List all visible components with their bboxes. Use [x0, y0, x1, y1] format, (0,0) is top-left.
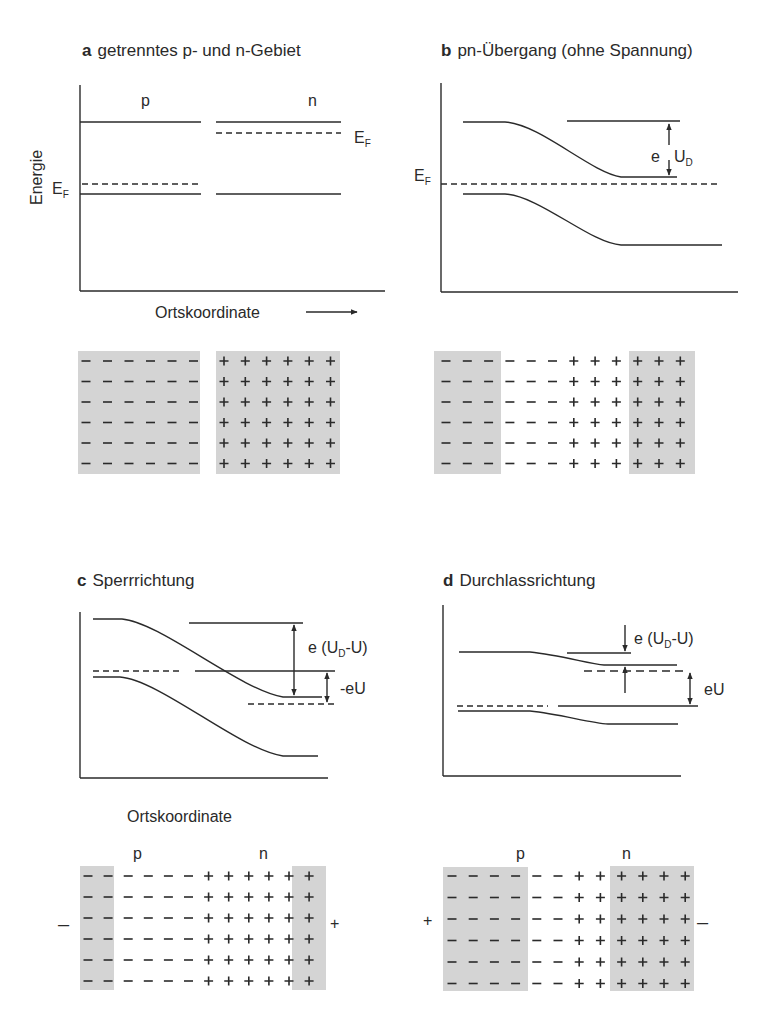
fermi-label-p: EF: [52, 180, 69, 200]
p-region-shaded: [80, 866, 114, 990]
plus-charge-icon: [204, 872, 213, 881]
right-terminal-plus: +: [330, 915, 339, 932]
voltage-label: -eU: [340, 680, 366, 697]
plus-charge-icon: [596, 915, 605, 924]
x-axis-label: Ortskoordinate: [155, 304, 260, 321]
plus-charge-icon: [569, 439, 578, 448]
n-region-shaded: [292, 866, 326, 990]
left-terminal-minus: –: [58, 913, 70, 935]
conduction-band: [93, 619, 322, 697]
n-label: n: [622, 845, 631, 862]
plus-charge-icon: [591, 398, 600, 407]
plus-charge-icon: [244, 977, 253, 986]
plus-charge-icon: [575, 936, 584, 945]
panel-c-diagram: [80, 612, 335, 778]
plus-charge-icon: [612, 459, 621, 468]
plus-charge-icon: [575, 893, 584, 902]
plus-charge-icon: [204, 893, 213, 902]
plus-charge-icon: [204, 914, 213, 923]
left-terminal-plus: +: [423, 912, 432, 929]
plus-charge-icon: [244, 914, 253, 923]
plus-charge-icon: [612, 439, 621, 448]
plus-charge-icon: [569, 398, 578, 407]
n-region-shaded: [629, 351, 695, 474]
plus-charge-icon: [612, 398, 621, 407]
plus-charge-icon: [204, 977, 213, 986]
plus-charge-icon: [612, 357, 621, 366]
plus-charge-icon: [264, 893, 273, 902]
plus-charge-icon: [569, 377, 578, 386]
plus-charge-icon: [264, 956, 273, 965]
plus-charge-icon: [591, 459, 600, 468]
plus-charge-icon: [596, 936, 605, 945]
plus-charge-icon: [244, 956, 253, 965]
band-diagrams: p n Energie EF EF Ortskoordinate EF e UD…: [0, 0, 781, 1024]
fermi-label: EF: [414, 167, 431, 187]
p-region-shaded: [434, 351, 501, 474]
plus-charge-icon: [264, 872, 273, 881]
plus-charge-icon: [575, 915, 584, 924]
plus-charge-icon: [224, 977, 233, 986]
barrier-label: e (UD-U): [308, 639, 368, 659]
fermi-label-n: EF: [354, 129, 371, 149]
conduction-band: [463, 122, 677, 177]
x-axis-label: Ortskoordinate: [127, 808, 232, 825]
plus-charge-icon: [612, 377, 621, 386]
plus-charge-icon: [224, 956, 233, 965]
plus-charge-icon: [264, 935, 273, 944]
plus-charge-icon: [591, 357, 600, 366]
plus-charge-icon: [204, 956, 213, 965]
plus-charge-icon: [264, 914, 273, 923]
plus-charge-icon: [569, 459, 578, 468]
plus-charge-icon: [264, 977, 273, 986]
plus-charge-icon: [612, 418, 621, 427]
n-label: n: [308, 92, 317, 109]
plus-charge-icon: [244, 935, 253, 944]
gap-label-e: e: [651, 148, 660, 165]
plus-charge-icon: [575, 872, 584, 881]
plus-charge-icon: [244, 872, 253, 881]
plus-charge-icon: [204, 935, 213, 944]
plus-charge-icon: [596, 872, 605, 881]
p-label: p: [133, 845, 142, 862]
gap-label-u: UD: [674, 148, 693, 168]
plus-charge-icon: [596, 893, 605, 902]
n-label: n: [259, 845, 268, 862]
plus-charge-icon: [575, 958, 584, 967]
plus-charge-icon: [224, 872, 233, 881]
conduction-band: [459, 652, 677, 665]
plus-charge-icon: [569, 418, 578, 427]
valence-band: [93, 677, 318, 756]
voltage-label: eU: [704, 681, 724, 698]
p-region-shaded: [78, 351, 200, 474]
plus-charge-icon: [244, 893, 253, 902]
plus-charge-icon: [596, 958, 605, 967]
plus-charge-icon: [596, 979, 605, 988]
n-region-shaded: [216, 351, 340, 474]
plus-charge-icon: [569, 357, 578, 366]
valence-band: [458, 711, 678, 724]
barrier-label: e (UD-U): [634, 630, 694, 650]
energy-axis-label: Energie: [28, 150, 45, 205]
p-label: p: [516, 845, 525, 862]
p-region-shaded: [443, 867, 528, 991]
plus-charge-icon: [591, 439, 600, 448]
panel-a-diagram: [80, 85, 385, 312]
panel-b-diagram: [441, 83, 738, 292]
plus-charge-icon: [224, 935, 233, 944]
n-region-shaded: [610, 866, 694, 991]
plus-charge-icon: [575, 979, 584, 988]
valence-band: [463, 194, 722, 245]
p-label: p: [141, 92, 150, 109]
right-terminal-minus: –: [697, 911, 709, 933]
plus-charge-icon: [224, 914, 233, 923]
plus-charge-icon: [591, 377, 600, 386]
plus-charge-icon: [591, 418, 600, 427]
plus-charge-icon: [224, 893, 233, 902]
